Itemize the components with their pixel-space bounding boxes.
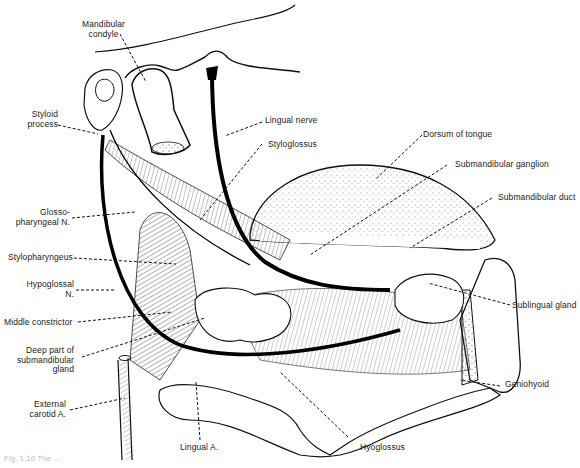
label-lingual-a: Lingual A. — [180, 443, 218, 453]
label-sublingual-gland: Sublingual gland — [512, 301, 576, 311]
label-submandibular-ganglion: Submandibular ganglion — [455, 160, 549, 170]
pharyngeal-muscles — [130, 213, 200, 380]
label-dorsum-of-tongue: Dorsum of tongue — [423, 130, 492, 140]
label-glossopharyngeal-n: Glosso- pharyngeal N. — [10, 208, 70, 227]
label-hyoglossus: Hyoglossus — [360, 443, 405, 453]
mandibular-condyle — [132, 69, 190, 155]
label-mandibular-condyle: Mandibular condyle — [82, 20, 125, 39]
label-hypoglossal-n: Hypoglossal N. — [10, 280, 74, 299]
label-styloglossus: Styloglossus — [268, 140, 317, 150]
sublingual-gland — [395, 274, 464, 323]
label-deep-part-submandibular-gland: Deep part of submandibular gland — [10, 346, 74, 375]
label-lingual-nerve: Lingual nerve — [265, 116, 317, 126]
label-stylopharyngeus: Stylopharyngeus — [8, 253, 73, 263]
styloglossus-muscle — [105, 140, 290, 260]
label-external-carotid-a: External carotid A. — [10, 400, 66, 419]
label-middle-constrictor: Middle constrictor — [4, 318, 72, 328]
anatomy-diagram: Mandibular condyle Styloid process Lingu… — [0, 0, 580, 468]
figure-caption: Fig. 1.10 The ... — [4, 454, 60, 463]
label-submandibular-duct: Submandibular duct — [498, 193, 575, 203]
submandibular-gland — [195, 288, 291, 342]
label-geniohyoid: Geniohyoid — [505, 380, 549, 390]
label-styloid-process: Styloid process — [22, 110, 58, 129]
diagram-artwork — [0, 0, 580, 468]
